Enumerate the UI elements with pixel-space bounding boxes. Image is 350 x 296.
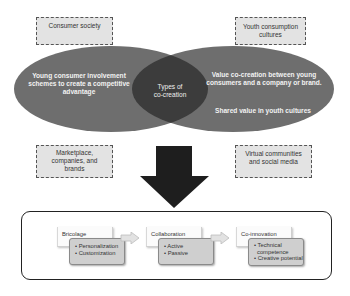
step-item: • Active <box>164 243 210 250</box>
step-details-collaboration: • Active • Passive <box>158 238 214 265</box>
step-item: • Creative potential <box>254 255 300 262</box>
step-title: Collaboration <box>151 231 185 237</box>
step-title: Bricolage <box>62 231 86 237</box>
flow-arrow-icon <box>210 232 230 244</box>
step-item: • Customization <box>75 250 121 257</box>
step-item: • Personalization <box>75 243 121 250</box>
step-details-bricolage: • Personalization • Customization <box>69 238 125 265</box>
flow-arrow-icon <box>120 232 140 244</box>
step-details-co-innovation: • Technical competence • Creative potent… <box>248 238 304 266</box>
step-title: Co-innovation <box>241 231 277 237</box>
step-item: • Passive <box>164 250 210 257</box>
